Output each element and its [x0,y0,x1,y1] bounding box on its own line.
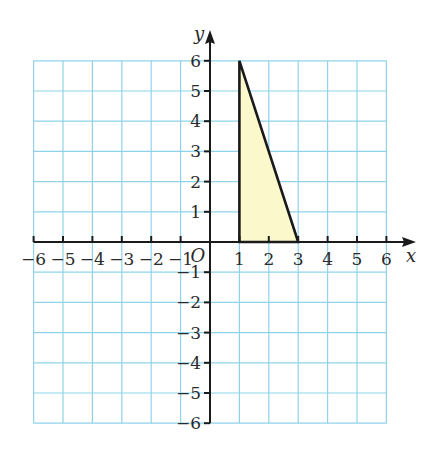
x-tick-label: −2 [139,249,164,269]
origin-label: O [191,245,206,266]
x-tick-label: −3 [109,249,134,269]
y-tick-label: −4 [176,353,201,373]
y-tick-label: −6 [176,413,201,433]
x-axis-label: x [406,245,416,266]
x-tick-label: −4 [80,249,105,269]
x-tick-label: 4 [322,249,333,269]
axes [34,30,416,423]
x-tick-label: 6 [381,249,392,269]
coordinate-grid-diagram: −6−5−4−3−2−1123456654321−1−2−3−4−5−6Oxy [0,0,436,454]
x-tick-label: −6 [21,249,46,269]
y-axis-label: y [193,23,205,44]
x-tick-label: 2 [263,249,274,269]
x-tick-label: 1 [234,249,245,269]
y-tick-label: 2 [190,172,201,192]
y-tick-label: −3 [176,323,201,343]
x-tick-label: 5 [352,249,363,269]
y-tick-label: −2 [176,292,201,312]
y-axis-arrow-icon [205,30,215,44]
y-tick-label: 1 [190,202,201,222]
x-tick-label: 3 [293,249,304,269]
y-tick-label: −5 [176,383,201,403]
y-tick-label: 3 [190,141,201,161]
y-tick-label: 4 [190,111,201,131]
x-tick-label: −5 [50,249,75,269]
y-tick-label: 5 [190,81,201,101]
y-tick-label: 6 [190,51,201,71]
